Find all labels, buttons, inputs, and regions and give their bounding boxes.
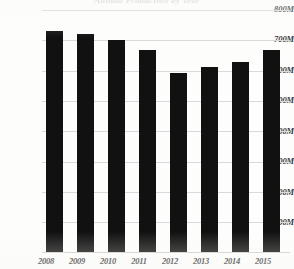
bar-2009 [77, 34, 94, 252]
bar-2014 [232, 62, 249, 252]
bar-2012 [170, 73, 187, 252]
x-axis-tick-label-2013: 2013 [184, 256, 218, 266]
chart-title: Annual Production by Year [0, 0, 294, 5]
x-axis-tick-label-2009: 2009 [60, 256, 94, 266]
bar-2015 [263, 50, 280, 252]
x-axis-line [42, 252, 290, 253]
bar-2010 [108, 40, 125, 252]
x-axis-tick-label-2014: 2014 [215, 256, 249, 266]
plot-area [42, 10, 290, 252]
bar-2013 [201, 67, 218, 252]
x-axis-tick-label-2010: 2010 [91, 256, 125, 266]
x-axis-tick-label-2011: 2011 [122, 256, 156, 266]
x-axis-tick-label-2015: 2015 [246, 256, 280, 266]
x-axis-tick-label-2012: 2012 [153, 256, 187, 266]
gridline-800m [42, 10, 290, 11]
x-axis-tick-label-2008: 2008 [29, 256, 63, 266]
bar-2008 [46, 31, 63, 252]
bar-chart: Annual Production by Year 800M 700M 600M… [0, 0, 294, 269]
bar-2011 [139, 50, 156, 252]
